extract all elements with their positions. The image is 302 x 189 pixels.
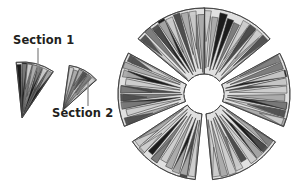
pinwheel-pie-diagram xyxy=(0,0,302,189)
label-section-2: Section 2 xyxy=(52,108,113,120)
label-section-1: Section 1 xyxy=(13,35,74,47)
